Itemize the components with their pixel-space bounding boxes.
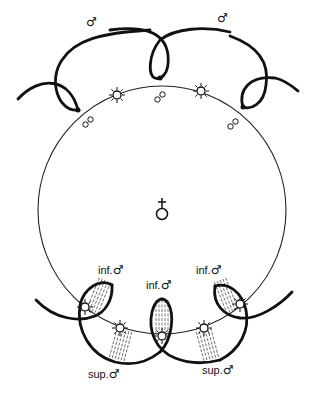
sun-zooid-icon: [112, 320, 128, 336]
top-right-male-label: ♂: [217, 12, 228, 24]
sup-right-label: sup.♂: [202, 364, 234, 376]
pair-symbol-icon: [83, 117, 93, 127]
sun-zooid-icon: [232, 296, 248, 312]
male-symbol-icon: ♂: [223, 363, 234, 377]
male-symbol-icon: ♂: [113, 263, 124, 277]
sun-zooid-icon: [109, 87, 125, 103]
top-left-outer-arc: [18, 83, 78, 110]
top-left-hatch-band: [96, 30, 132, 93]
sup-left-label: sup.♂: [88, 368, 120, 380]
bottom-left-sup-hatch: [109, 328, 131, 361]
colony-circle: [38, 86, 286, 334]
male-symbol-icon: ♂: [217, 11, 228, 25]
female-symbol-icon: [157, 198, 168, 220]
bottom-right-inf-hatch: [214, 278, 238, 314]
top-center-loop: [110, 29, 230, 79]
sun-zooid-icon: [77, 299, 93, 315]
pair-symbol-icon: [155, 92, 165, 102]
male-symbol-icon: ♂: [109, 367, 120, 381]
inf-left-label: inf.♂: [98, 264, 123, 276]
sun-zooid-icon: [196, 320, 212, 336]
male-symbol-icon: ♂: [86, 15, 97, 29]
bottom-right-outer-arc: [215, 286, 292, 318]
diagram-canvas: [0, 0, 312, 395]
top-left-loop-arc: [55, 30, 150, 110]
gonozooid-dot: [241, 105, 246, 110]
diagram: ♂ ♂ inf.♂ inf.♂ inf.♂ sup.♂ sup.♂: [0, 0, 312, 395]
sun-zooid-icon: [154, 328, 170, 344]
gonozooid-dot: [76, 108, 81, 113]
male-symbol-icon: ♂: [211, 263, 222, 277]
top-right-loop-arc: [230, 36, 267, 108]
inf-right-label: inf.♂: [196, 264, 221, 276]
top-right-hatch-band: [195, 30, 231, 93]
gonozooid-dot: [158, 76, 163, 81]
male-symbol-icon: ♂: [161, 278, 172, 292]
sun-zooid-icon: [193, 83, 209, 99]
bottom-left-loop: [79, 283, 160, 364]
top-right-outer-arc: [242, 78, 298, 107]
pair-symbol-icon: [228, 119, 238, 129]
top-left-male-label: ♂: [86, 16, 97, 28]
bottom-center-loop: [151, 299, 220, 363]
inf-center-label: inf.♂: [146, 279, 171, 291]
